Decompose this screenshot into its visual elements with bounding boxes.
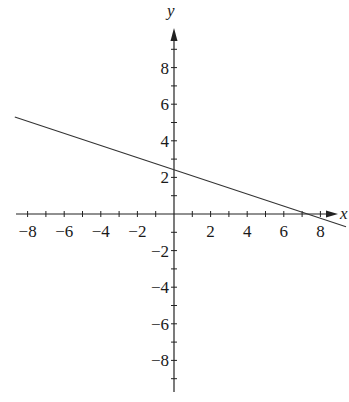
y-tick-label: −2 xyxy=(151,242,169,261)
axes xyxy=(16,28,338,392)
x-tick-label: 6 xyxy=(280,222,289,241)
y-tick-label: 2 xyxy=(161,168,170,187)
y-tick-label: −4 xyxy=(151,278,170,297)
x-tick-label: 4 xyxy=(243,222,252,241)
y-tick-label: 6 xyxy=(161,95,170,114)
y-tick-label: −8 xyxy=(151,351,169,370)
y-axis-arrow-icon xyxy=(171,28,178,41)
y-tick-label: −6 xyxy=(151,315,169,334)
x-axis-arrow-icon xyxy=(326,211,338,218)
data-line xyxy=(15,117,346,227)
x-tick-label: −4 xyxy=(92,222,111,241)
x-tick-label: 8 xyxy=(316,222,325,241)
y-axis-label: y xyxy=(165,1,175,20)
y-tick-label: 8 xyxy=(161,59,170,78)
x-axis-label: x xyxy=(339,204,348,223)
series xyxy=(15,117,346,227)
x-tick-label: −8 xyxy=(19,222,37,241)
x-tick-label: −2 xyxy=(128,222,146,241)
x-tick-label: 2 xyxy=(206,222,215,241)
x-tick-label: −6 xyxy=(55,222,73,241)
chart: −8−6−4−224688642−2−4−6−8 x y xyxy=(0,0,349,402)
y-tick-label: 4 xyxy=(161,132,170,151)
